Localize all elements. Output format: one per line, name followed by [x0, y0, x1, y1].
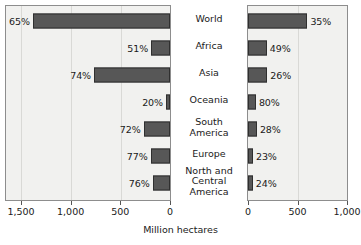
table-row: 26%	[248, 61, 347, 88]
table-row: 23%	[248, 142, 347, 169]
right-x-axis: 05001,000	[247, 201, 348, 223]
bar-left-oceania	[166, 94, 170, 109]
category-label-europe: Europe	[171, 141, 247, 168]
table-row: 51%	[6, 34, 170, 61]
left-x-axis: 1,5001,0005000	[5, 201, 171, 223]
bar-right-asia	[248, 67, 267, 82]
bar-value-label: 77%	[127, 150, 148, 161]
table-row: 35%	[248, 7, 347, 34]
axis-tick-label: 0	[245, 206, 251, 217]
bar-left-europe	[151, 148, 170, 163]
table-row: 74%	[6, 61, 170, 88]
axis-tick	[248, 201, 249, 205]
table-row: 49%	[248, 34, 347, 61]
axis-tick-label: 0	[167, 206, 173, 217]
bar-right-oceania	[248, 94, 256, 109]
axis-tick	[170, 201, 171, 205]
axis-tick-label: 1,000	[57, 206, 84, 217]
axis-tick	[298, 201, 299, 205]
category-label-column: WorldAfricaAsiaOceaniaSouthAmericaEurope…	[171, 5, 247, 201]
bar-value-label: 20%	[142, 96, 163, 107]
table-row: 20%	[6, 88, 170, 115]
bar-left-south-america	[144, 121, 170, 136]
table-row: 77%	[6, 142, 170, 169]
x-axis-title: Million hectares	[0, 224, 361, 235]
bar-left-asia	[94, 67, 170, 82]
bar-right-africa	[248, 40, 267, 55]
bar-right-south-america	[248, 121, 257, 136]
bar-right-north-and-central-america	[248, 175, 253, 190]
bar-value-label: 35%	[310, 15, 331, 26]
chart-figure: 65%51%74%20%72%77%76% WorldAfricaAsiaOce…	[0, 0, 361, 245]
table-row: 24%	[248, 169, 347, 196]
bar-value-label: 76%	[129, 177, 150, 188]
table-row: 80%	[248, 88, 347, 115]
bar-left-north-and-central-america	[153, 175, 170, 190]
axis-tick-label: 1,000	[333, 206, 360, 217]
axis-tick	[21, 201, 22, 205]
bar-value-label: 23%	[256, 150, 277, 161]
right-plot-panel: 35%49%26%80%28%23%24%	[247, 5, 348, 201]
bar-value-label: 65%	[9, 15, 30, 26]
axis-tick-label: 1,500	[7, 206, 34, 217]
table-row: 65%	[6, 7, 170, 34]
bar-value-label: 28%	[260, 123, 281, 134]
bar-right-europe	[248, 148, 253, 163]
bar-value-label: 80%	[259, 96, 280, 107]
axis-tick	[120, 201, 121, 205]
axis-tick	[347, 201, 348, 205]
bar-value-label: 24%	[256, 177, 277, 188]
axis-tick	[71, 201, 72, 205]
bar-right-world	[248, 13, 307, 28]
category-label-world: World	[171, 6, 247, 33]
category-label-oceania: Oceania	[171, 87, 247, 114]
table-row: 72%	[6, 115, 170, 142]
bar-value-label: 51%	[127, 42, 148, 53]
category-label-asia: Asia	[171, 60, 247, 87]
axis-tick-label: 500	[111, 206, 129, 217]
bar-value-label: 74%	[70, 69, 91, 80]
bar-value-label: 72%	[120, 123, 141, 134]
bar-left-world	[33, 13, 170, 28]
category-label-north-and-central-america: North andCentralAmerica	[171, 168, 247, 195]
table-row: 28%	[248, 115, 347, 142]
bar-value-label: 49%	[270, 42, 291, 53]
bar-left-africa	[151, 40, 170, 55]
left-plot-panel: 65%51%74%20%72%77%76%	[5, 5, 171, 201]
axis-tick-label: 500	[288, 206, 306, 217]
bar-value-label: 26%	[270, 69, 291, 80]
category-label-south-america: SouthAmerica	[171, 114, 247, 141]
table-row: 76%	[6, 169, 170, 196]
category-label-africa: Africa	[171, 33, 247, 60]
